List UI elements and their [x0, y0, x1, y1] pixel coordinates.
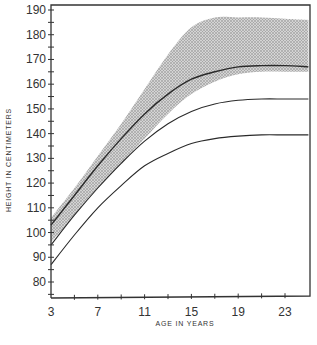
x-tick-label: 15 — [185, 305, 199, 319]
growth-chart: 8090100110120130140150160170180190371115… — [0, 0, 317, 345]
shaded-band-area — [51, 17, 308, 243]
y-tick-label: 140 — [26, 127, 46, 141]
y-tick-label: 90 — [33, 250, 47, 264]
y-axis-title: HEIGHT IN CENTIMETERS — [5, 108, 12, 212]
y-tick-label: 170 — [26, 52, 46, 66]
y-tick-label: 190 — [26, 3, 46, 17]
y-tick-label: 180 — [26, 28, 46, 42]
shaded-range-band — [51, 17, 308, 243]
x-tick-label: 7 — [94, 305, 101, 319]
y-tick-label: 150 — [26, 102, 46, 116]
y-tick-label: 80 — [33, 275, 47, 289]
y-tick-label: 130 — [26, 151, 46, 165]
x-tick-label: 3 — [48, 305, 55, 319]
x-tick-label: 11 — [138, 305, 151, 319]
x-tick-label: 19 — [232, 305, 246, 319]
y-tick-label: 110 — [27, 201, 46, 215]
y-tick-label: 100 — [26, 226, 46, 240]
y-tick-label: 120 — [26, 176, 46, 190]
x-tick-label: 23 — [278, 305, 292, 319]
y-tick-label: 160 — [26, 77, 46, 91]
x-axis-title: AGE IN YEARS — [156, 320, 215, 327]
curve-line-2 — [51, 135, 308, 265]
